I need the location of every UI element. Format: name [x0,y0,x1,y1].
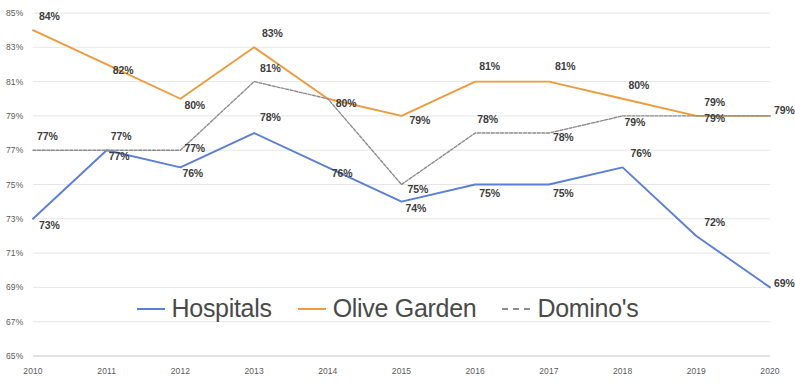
data-label: 83% [262,27,283,39]
y-axis-tick-label: 79% [6,111,23,121]
x-axis-tick-label: 2019 [682,366,710,376]
legend-item-domino-s[interactable]: Domino's [502,296,638,321]
data-label: 78% [477,113,498,125]
series-line-domino-s [33,82,770,185]
x-axis-tick-label: 2017 [535,366,563,376]
x-axis-tick-label: 2020 [756,366,784,376]
data-label: 75% [553,187,574,199]
data-label: 75% [408,183,429,195]
legend-item-olive-garden[interactable]: Olive Garden [298,296,477,321]
data-label: 79% [704,112,725,124]
x-axis-tick-label: 2015 [388,366,416,376]
series-line-olive-garden [33,30,770,116]
series-line-hospitals [33,133,770,287]
y-axis-tick-label: 69% [6,282,23,292]
data-label: 79% [625,116,646,128]
data-label: 82% [113,64,134,76]
data-label: 73% [39,219,60,231]
data-label: 79% [410,114,431,126]
x-axis-tick-label: 2013 [240,366,268,376]
data-label: 77% [184,142,205,154]
y-axis-tick-label: 73% [6,214,23,224]
y-axis-tick-label: 65% [6,351,23,361]
data-label: 77% [111,130,132,142]
data-label: 78% [553,131,574,143]
y-axis-tick-label: 81% [6,77,23,87]
chart-legend: HospitalsOlive GardenDomino's [0,296,775,321]
legend-swatch-icon [137,308,165,310]
data-label: 72% [704,216,725,228]
y-axis-tick-label: 83% [6,42,23,52]
data-label: 84% [39,10,60,22]
legend-label: Domino's [537,296,638,321]
legend-item-hospitals[interactable]: Hospitals [137,296,272,321]
data-label: 81% [555,60,576,72]
data-label: 77% [109,150,130,162]
data-label: 75% [479,187,500,199]
y-axis-tick-label: 77% [6,145,23,155]
y-axis-tick-label: 71% [6,248,23,258]
data-label: 78% [260,111,281,123]
x-axis-tick-label: 2010 [19,366,47,376]
data-label: 77% [37,130,58,142]
data-label: 76% [182,167,203,179]
x-axis-tick-label: 2014 [314,366,342,376]
data-label: 81% [260,62,281,74]
y-axis-tick-label: 85% [6,8,23,18]
legend-swatch-icon [502,308,530,310]
data-label: 79% [704,96,725,108]
legend-swatch-icon [298,308,326,310]
y-axis-tick-label: 75% [6,180,23,190]
legend-label: Olive Garden [333,296,477,321]
x-axis-tick-label: 2011 [93,366,121,376]
data-label: 80% [629,79,650,91]
data-label: 69% [774,277,795,289]
x-axis-tick-label: 2012 [166,366,194,376]
data-label: 81% [479,60,500,72]
data-label: 80% [336,97,357,109]
data-label: 74% [406,202,427,214]
data-label: 80% [184,99,205,111]
data-label: 76% [631,147,652,159]
data-label: 76% [332,167,353,179]
x-axis-tick-label: 2018 [609,366,637,376]
data-label: 79% [774,104,795,116]
legend-label: Hospitals [172,296,272,321]
x-axis-tick-label: 2016 [461,366,489,376]
